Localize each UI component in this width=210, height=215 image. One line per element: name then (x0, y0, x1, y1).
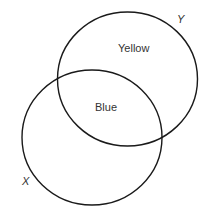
set-label-x: X (22, 175, 29, 187)
region-label-blue: Blue (95, 101, 117, 113)
region-label-yellow: Yellow (118, 42, 149, 54)
set-label-y: Y (177, 13, 184, 25)
